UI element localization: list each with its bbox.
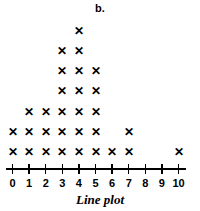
axis-tick-label: 3 [59, 178, 65, 189]
data-mark: ✕ [57, 46, 68, 57]
data-mark: ✕ [123, 147, 134, 158]
data-mark: ✕ [90, 126, 101, 137]
figure-caption: Line plot [0, 193, 200, 206]
data-mark: ✕ [57, 106, 68, 117]
axis-tick [178, 164, 180, 175]
axis-tick [145, 164, 147, 175]
data-mark: ✕ [57, 66, 68, 77]
data-mark: ✕ [73, 86, 84, 97]
data-mark: ✕ [73, 25, 84, 36]
data-mark: ✕ [24, 126, 35, 137]
axis-tick [128, 164, 130, 175]
data-mark: ✕ [7, 147, 18, 158]
axis-tick-label: 10 [172, 178, 184, 189]
data-mark: ✕ [90, 86, 101, 97]
data-mark: ✕ [57, 86, 68, 97]
data-mark: ✕ [24, 106, 35, 117]
data-mark: ✕ [7, 126, 18, 137]
axis-tick-label: 8 [142, 178, 148, 189]
axis-tick [62, 164, 64, 175]
axis-tick-label: 1 [26, 178, 32, 189]
data-mark: ✕ [90, 66, 101, 77]
line-plot-figure: b. ✕✕✕✕✕✕✕✕✕✕✕✕✕✕✕✕✕✕✕✕✕✕✕✕✕✕✕✕✕✕ 012345… [0, 0, 200, 211]
data-mark: ✕ [90, 147, 101, 158]
data-mark: ✕ [90, 106, 101, 117]
axis-tick-label: 9 [159, 178, 165, 189]
axis-tick [111, 164, 113, 175]
data-mark: ✕ [73, 66, 84, 77]
axis-tick-label: 5 [92, 178, 98, 189]
axis-tick-label: 4 [76, 178, 82, 189]
axis-tick-label: 6 [109, 178, 115, 189]
axis-tick [161, 164, 163, 175]
data-mark: ✕ [24, 147, 35, 158]
data-mark: ✕ [57, 126, 68, 137]
axis-tick [78, 164, 80, 175]
data-mark: ✕ [107, 147, 118, 158]
data-mark: ✕ [73, 126, 84, 137]
axis-tick [28, 164, 30, 175]
data-mark: ✕ [123, 126, 134, 137]
data-mark: ✕ [173, 147, 184, 158]
data-mark: ✕ [73, 147, 84, 158]
panel-label: b. [95, 3, 105, 14]
data-mark: ✕ [73, 46, 84, 57]
axis-tick-label: 7 [126, 178, 132, 189]
data-mark: ✕ [40, 147, 51, 158]
data-mark: ✕ [73, 106, 84, 117]
data-mark: ✕ [40, 106, 51, 117]
axis-tick [45, 164, 47, 175]
data-mark: ✕ [57, 147, 68, 158]
axis-tick [95, 164, 97, 175]
axis-tick-label: 2 [43, 178, 49, 189]
axis-tick [12, 164, 14, 175]
data-mark: ✕ [40, 126, 51, 137]
axis-tick-label: 0 [9, 178, 15, 189]
